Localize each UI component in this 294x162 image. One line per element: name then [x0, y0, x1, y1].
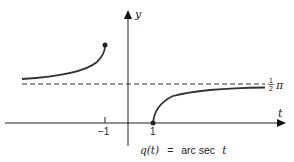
- t-axis-arrow-icon: [277, 119, 286, 127]
- tick-label-neg1: −1: [98, 126, 110, 137]
- t-axis-label: t: [278, 107, 283, 120]
- arcsec-chart: t y −1 1 1 2 π q(t) = arc sec t: [0, 0, 294, 162]
- curve-left-branch: [22, 46, 105, 79]
- endpoint-dot-left: [103, 43, 108, 48]
- asymptote-label-den: 2: [269, 85, 273, 92]
- tick-label-1: 1: [150, 126, 156, 137]
- curve-right-branch: [153, 88, 265, 124]
- endpoint-dot-right: [151, 121, 156, 126]
- y-axis-label: y: [134, 8, 142, 21]
- chart-caption: q(t) = arc sec t: [140, 140, 227, 157]
- asymptote-label-num: 1: [269, 77, 273, 84]
- y-axis-arrow-icon: [124, 10, 132, 19]
- asymptote-label-pi: π: [275, 79, 284, 92]
